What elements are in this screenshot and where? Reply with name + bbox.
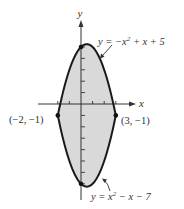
left-intersection-label: (−2, −1) xyxy=(9,114,44,126)
point-marker xyxy=(114,113,119,118)
x-axis-label: x xyxy=(138,97,144,109)
right-intersection-label: (3, −1) xyxy=(121,115,150,127)
y-axis-arrow-icon xyxy=(79,20,84,27)
shaded-region xyxy=(58,44,116,187)
region-between-parabolas-diagram: x y y = −x2 + x + 5 y = x2 − x − 7 (−2, … xyxy=(0,0,184,209)
point-marker xyxy=(79,45,84,50)
x-axis-arrow-icon xyxy=(129,102,136,107)
upper-curve-equation-label: y = −x2 + x + 5 xyxy=(97,35,165,47)
point-marker xyxy=(56,113,61,118)
y-axis-label: y xyxy=(77,7,83,19)
lower-curve-equation-label: y = x2 − x − 7 xyxy=(90,190,151,202)
point-marker xyxy=(79,182,84,187)
